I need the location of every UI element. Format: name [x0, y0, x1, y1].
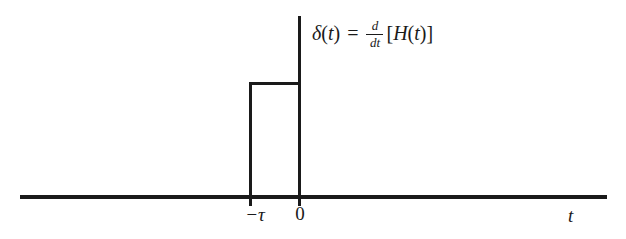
- tick-label-negative-tau: −τ: [231, 205, 279, 224]
- equation-lhs-close-paren: ): [334, 22, 341, 45]
- equation-rhs-close-paren: ): [420, 22, 427, 45]
- pulse-left-edge: [249, 83, 252, 206]
- equation-bracket-close: ]: [427, 22, 434, 45]
- derivative-denominator: dt: [368, 35, 382, 50]
- tick-label-zero: 0: [278, 204, 322, 223]
- x-axis-label: t: [568, 205, 573, 227]
- pulse-top-edge: [249, 82, 301, 85]
- delta-function-figure: −τ 0 t δ ( t ) = d dt [ H ( t ) ]: [0, 0, 626, 239]
- equation-lhs-open-paren: (: [321, 22, 328, 45]
- derivative-operator-fraction: d dt: [366, 19, 383, 49]
- vertical-axis: [298, 16, 301, 206]
- equation-equals-sign: =: [347, 22, 358, 45]
- equation-rhs-open-paren: (: [408, 22, 415, 45]
- horizontal-axis: [20, 195, 607, 199]
- equation-heaviside-symbol: H: [393, 22, 407, 45]
- derivative-numerator: d: [370, 19, 381, 34]
- equation-delta-symbol: δ: [312, 22, 321, 45]
- equation-annotation: δ ( t ) = d dt [ H ( t ) ]: [312, 16, 433, 50]
